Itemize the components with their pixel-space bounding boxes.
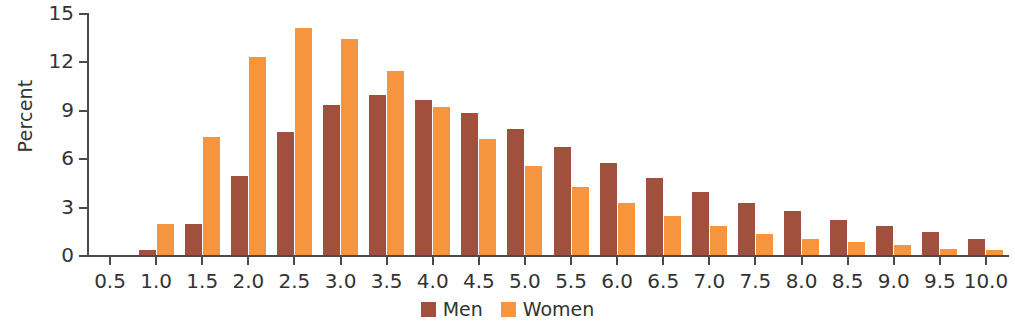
bar-women-2.5 xyxy=(295,28,312,255)
y-axis-title: Percent xyxy=(14,46,36,186)
x-tick xyxy=(985,255,987,265)
x-tick xyxy=(662,255,664,265)
bar-women-8.5 xyxy=(848,242,865,255)
bar-women-4.0 xyxy=(433,107,450,255)
bar-women-3.5 xyxy=(387,71,404,255)
x-tick-label: 6.0 xyxy=(601,269,633,293)
bar-men-1.5 xyxy=(185,224,202,255)
y-tick-label: 12 xyxy=(34,49,74,73)
x-tick xyxy=(893,255,895,265)
y-tick-label: 6 xyxy=(34,146,74,170)
x-tick xyxy=(754,255,756,265)
bar-men-5.0 xyxy=(507,129,524,255)
x-tick xyxy=(340,255,342,265)
bar-men-2.5 xyxy=(277,132,294,255)
x-tick-label: 9.0 xyxy=(878,269,910,293)
bar-women-2.0 xyxy=(249,57,266,255)
x-tick-label: 5.0 xyxy=(509,269,541,293)
x-tick xyxy=(708,255,710,265)
x-tick-label: 6.5 xyxy=(647,269,679,293)
x-tick-label: 0.5 xyxy=(94,269,126,293)
bar-men-6.5 xyxy=(646,178,663,255)
y-tick-label: 3 xyxy=(34,195,74,219)
legend-label: Women xyxy=(523,300,595,319)
x-tick xyxy=(386,255,388,265)
x-tick-label: 8.5 xyxy=(832,269,864,293)
x-tick-label: 2.0 xyxy=(232,269,264,293)
y-tick-label: 0 xyxy=(34,243,74,267)
bar-chart: Percent 03691215 0.51.01.52.02.53.03.54.… xyxy=(0,0,1015,332)
legend-item-women[interactable]: Women xyxy=(501,300,595,319)
x-tick-label: 1.0 xyxy=(140,269,172,293)
x-tick-label: 5.5 xyxy=(555,269,587,293)
x-tick-label: 1.5 xyxy=(186,269,218,293)
x-tick xyxy=(247,255,249,265)
legend-swatch-icon xyxy=(421,302,436,317)
bar-women-6.5 xyxy=(664,216,681,255)
x-tick xyxy=(616,255,618,265)
legend-swatch-icon xyxy=(501,302,516,317)
x-tick xyxy=(155,255,157,265)
bar-women-10.0 xyxy=(986,250,1003,255)
x-tick xyxy=(570,255,572,265)
bar-women-5.5 xyxy=(572,187,589,255)
bar-women-6.0 xyxy=(618,203,635,255)
x-tick xyxy=(201,255,203,265)
x-tick-label: 9.5 xyxy=(924,269,956,293)
x-tick xyxy=(524,255,526,265)
bar-women-1.5 xyxy=(203,137,220,255)
bars-layer xyxy=(87,13,1009,255)
x-tick xyxy=(801,255,803,265)
bar-women-3.0 xyxy=(341,39,358,255)
plot-area: 03691215 0.51.01.52.02.53.03.54.04.55.05… xyxy=(87,13,1009,255)
y-tick-label: 15 xyxy=(34,1,74,25)
chart-legend: MenWomen xyxy=(0,300,1015,319)
x-tick xyxy=(432,255,434,265)
bar-men-2.0 xyxy=(231,176,248,255)
x-tick-label: 4.5 xyxy=(463,269,495,293)
bar-men-3.0 xyxy=(323,105,340,255)
bar-men-6.0 xyxy=(600,163,617,255)
bar-men-4.5 xyxy=(461,113,478,255)
bar-men-3.5 xyxy=(369,95,386,255)
x-tick-label: 2.5 xyxy=(279,269,311,293)
bar-men-5.5 xyxy=(554,147,571,255)
bar-women-9.0 xyxy=(894,245,911,255)
bar-women-9.5 xyxy=(940,249,957,255)
x-tick xyxy=(939,255,941,265)
y-tick-label: 9 xyxy=(34,98,74,122)
bar-men-8.5 xyxy=(830,220,847,255)
bar-men-9.0 xyxy=(876,226,893,255)
x-tick-label: 10.0 xyxy=(964,269,1009,293)
x-tick-label: 4.0 xyxy=(417,269,449,293)
bar-men-1.0 xyxy=(139,250,156,255)
x-tick xyxy=(293,255,295,265)
legend-item-men[interactable]: Men xyxy=(421,300,483,319)
bar-women-1.0 xyxy=(157,224,174,255)
bar-men-7.5 xyxy=(738,203,755,255)
x-tick xyxy=(847,255,849,265)
bar-women-4.5 xyxy=(479,139,496,255)
bar-men-4.0 xyxy=(415,100,432,255)
bar-men-10.0 xyxy=(968,239,985,255)
x-tick-label: 3.0 xyxy=(325,269,357,293)
bar-women-7.0 xyxy=(710,226,727,255)
bar-women-8.0 xyxy=(802,239,819,255)
bar-men-7.0 xyxy=(692,192,709,255)
x-tick-label: 8.0 xyxy=(786,269,818,293)
legend-label: Men xyxy=(443,300,483,319)
x-tick-label: 3.5 xyxy=(371,269,403,293)
x-tick xyxy=(109,255,111,265)
bar-men-8.0 xyxy=(784,211,801,255)
x-tick-label: 7.0 xyxy=(693,269,725,293)
y-tick: 0 xyxy=(79,255,88,257)
x-tick-label: 7.5 xyxy=(740,269,772,293)
bar-women-7.5 xyxy=(756,234,773,255)
bar-women-5.0 xyxy=(525,166,542,255)
x-tick xyxy=(478,255,480,265)
bar-men-9.5 xyxy=(922,232,939,255)
x-axis-line xyxy=(87,255,1009,257)
